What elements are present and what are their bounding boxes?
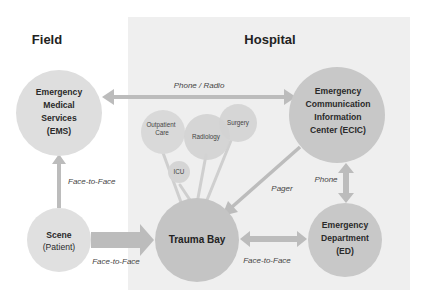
scene-to-ems-arrow bbox=[52, 154, 66, 208]
ems-label-line4: (EMS) bbox=[47, 126, 71, 136]
ecic-label-line2: Communication bbox=[306, 99, 371, 109]
diagram-canvas: Field Hospital Outpatient Care Radiology… bbox=[0, 0, 425, 306]
surgery-label: Surgery bbox=[227, 119, 250, 127]
pager-label: Pager bbox=[271, 184, 293, 193]
outpatient-label-line1: Outpatient bbox=[146, 121, 175, 129]
phone-radio-label: Phone / Radio bbox=[174, 81, 225, 90]
phone-label: Phone bbox=[314, 175, 338, 184]
ecic-label-line4: Center (ECIC) bbox=[310, 125, 366, 135]
ecic-label-line3: Information bbox=[314, 112, 361, 122]
field-region-label: Field bbox=[32, 32, 62, 47]
icu-label: ICU bbox=[174, 168, 185, 175]
hospital-region-label: Hospital bbox=[244, 32, 295, 47]
ems-label-line2: Medical bbox=[43, 100, 75, 110]
scene-node bbox=[27, 208, 91, 272]
ed-label-line2: Department bbox=[321, 233, 369, 243]
outpatient-label-line2: Care bbox=[155, 129, 169, 136]
ed-label-line1: Emergency bbox=[322, 220, 369, 230]
trauma-bay-label: Trauma Bay bbox=[169, 234, 226, 245]
ecic-label-line1: Emergency bbox=[315, 86, 362, 96]
scene-ems-label: Face-to-Face bbox=[68, 177, 116, 186]
trauma-ed-label: Face-to-Face bbox=[243, 256, 291, 265]
ems-label-line3: Services bbox=[41, 113, 77, 123]
ed-label-line3: (ED) bbox=[336, 246, 354, 256]
ems-label-line1: Emergency bbox=[36, 87, 83, 97]
scene-trauma-label: Face-to-Face bbox=[92, 257, 140, 266]
scene-label-line1: Scene bbox=[46, 230, 72, 240]
scene-label-line2: (Patient) bbox=[43, 242, 76, 252]
radiology-label: Radiology bbox=[192, 133, 221, 141]
